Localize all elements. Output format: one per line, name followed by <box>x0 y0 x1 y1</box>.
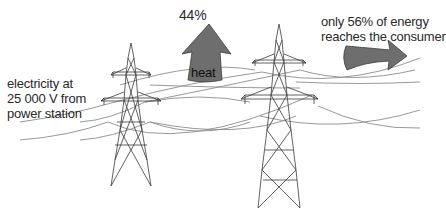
left-pylon <box>101 43 161 186</box>
right-pylon <box>241 24 318 208</box>
heat-loss-percent: 44% <box>179 8 206 23</box>
consumer-label-line-2: reaches the consumer <box>321 29 446 44</box>
delivered-energy-arrow <box>344 40 407 70</box>
heat-label: heat <box>191 65 216 80</box>
consumer-label: only 56% of energy reaches the consumer <box>321 14 446 44</box>
source-label-line-2: 25 000 V from <box>7 91 86 106</box>
source-label: electricity at 25 000 V from power stati… <box>7 76 86 121</box>
source-label-line-1: electricity at <box>7 76 86 91</box>
consumer-label-line-1: only 56% of energy <box>321 14 446 29</box>
source-label-line-3: power station <box>7 106 86 121</box>
